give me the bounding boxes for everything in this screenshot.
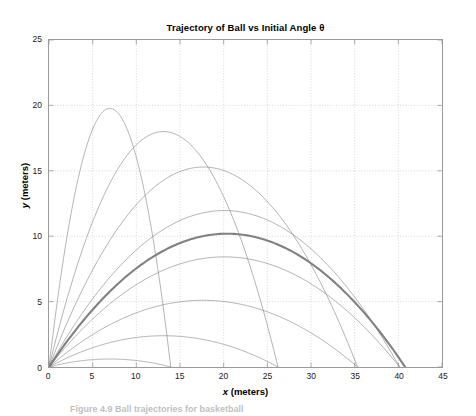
x-axis-variable: x bbox=[223, 386, 228, 397]
figure-container: Trajectory of Ball vs Initial Angle θ 05… bbox=[0, 0, 476, 416]
x-tick-40: 40 bbox=[384, 371, 414, 381]
x-axis-title: x (meters) bbox=[48, 386, 443, 397]
y-tick-25: 25 bbox=[16, 34, 42, 44]
y-axis-variable: y bbox=[19, 203, 30, 208]
chart-title: Trajectory of Ball vs Initial Angle θ bbox=[48, 22, 443, 33]
y-axis-unit: (meters) bbox=[19, 163, 30, 201]
x-tick-30: 30 bbox=[296, 371, 326, 381]
x-tick-20: 20 bbox=[209, 371, 239, 381]
gridlines bbox=[49, 40, 442, 367]
y-tick-5: 5 bbox=[16, 297, 42, 307]
trajectory-curves bbox=[49, 108, 405, 367]
tick-marks bbox=[49, 40, 442, 367]
y-axis-title: y (meters) bbox=[19, 126, 30, 246]
x-tick-25: 25 bbox=[252, 371, 282, 381]
trajectory-plot bbox=[49, 40, 442, 367]
x-tick-35: 35 bbox=[340, 371, 370, 381]
y-tick-20: 20 bbox=[16, 100, 42, 110]
x-axis-unit: (meters) bbox=[231, 386, 269, 397]
x-tick-10: 10 bbox=[121, 371, 151, 381]
x-tick-15: 15 bbox=[165, 371, 195, 381]
plot-area bbox=[48, 39, 443, 368]
x-tick-5: 5 bbox=[77, 371, 107, 381]
figure-caption: Figure 4.9 Ball trajectories for basketb… bbox=[70, 404, 400, 414]
x-tick-45: 45 bbox=[428, 371, 458, 381]
y-tick-0: 0 bbox=[16, 363, 42, 373]
